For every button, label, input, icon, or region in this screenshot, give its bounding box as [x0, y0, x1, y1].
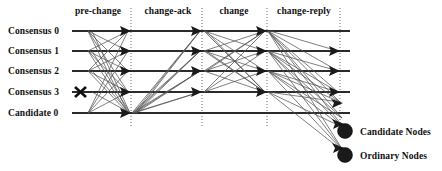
participant-label-consensus-2: Consensus 2 — [8, 66, 59, 76]
diagram-canvas: pre-change change-ack change change-repl… — [0, 0, 442, 171]
legend: Candidate Nodes Ordinary Nodes — [338, 124, 432, 163]
phase-label-change-ack: change-ack — [145, 6, 193, 16]
sequence-diagram-figure: pre-change change-ack change change-repl… — [0, 0, 442, 171]
participant-label-consensus-0: Consensus 0 — [8, 26, 59, 36]
messages-change — [204, 26, 267, 97]
phase-dividers — [131, 8, 340, 126]
phase-label-pre-change: pre-change — [75, 6, 121, 16]
legend-label-ordinary-nodes: Ordinary Nodes — [360, 151, 427, 161]
phase-label-change: change — [219, 6, 248, 16]
legend-symbol-ordinary-nodes — [338, 148, 353, 163]
participant-label-candidate-0: Candidate 0 — [8, 108, 59, 118]
participant-label-consensus-3: Consensus 3 — [8, 87, 59, 97]
legend-label-candidate-nodes: Candidate Nodes — [360, 127, 431, 137]
legend-symbol-candidate-nodes — [338, 124, 353, 139]
messages-change-ack — [132, 26, 202, 113]
phase-labels: pre-change change-ack change change-repl… — [75, 6, 331, 16]
participant-labels: Consensus 0 Consensus 1 Consensus 2 Cons… — [8, 26, 59, 118]
participant-timelines — [72, 31, 350, 113]
phase-label-change-reply: change-reply — [277, 6, 331, 16]
participant-label-consensus-1: Consensus 1 — [8, 46, 59, 56]
